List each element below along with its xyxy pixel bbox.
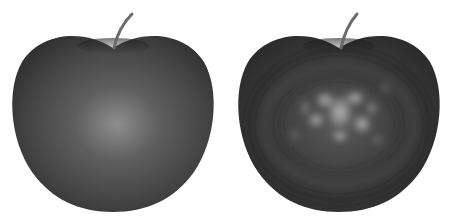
apple-body xyxy=(12,36,213,212)
apple-comparison-scene xyxy=(0,0,450,217)
smooth-apple xyxy=(12,14,213,212)
apples-illustration xyxy=(0,0,450,217)
stem-cavity xyxy=(303,38,375,54)
textured-apple xyxy=(238,14,439,212)
